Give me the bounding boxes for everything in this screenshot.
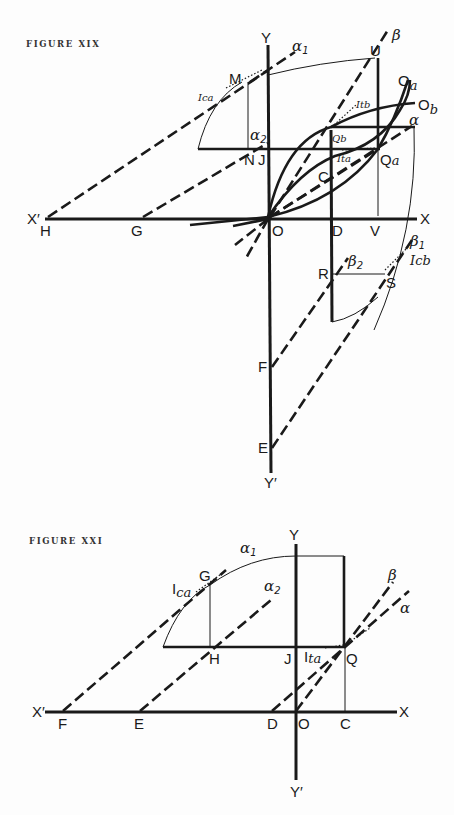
label-j: J: [258, 151, 266, 168]
label-n: N: [244, 151, 255, 168]
label-alpha2: α2: [250, 126, 267, 145]
label-ica: Ica: [197, 92, 214, 103]
label-r: R: [318, 265, 329, 282]
label-y: Y: [289, 526, 299, 543]
label-beta2: β2: [347, 252, 363, 271]
label-g: G: [199, 567, 211, 584]
figure-xxi-diagram: Y Y′ X X′ F E D O C G H J Q α α1 α2 β Ic…: [0, 520, 454, 815]
label-qb: Qb: [332, 133, 347, 144]
label-v: V: [370, 222, 380, 239]
label-f: F: [58, 715, 67, 732]
label-g: G: [131, 222, 143, 239]
label-e: E: [134, 715, 144, 732]
e-dashed-line: [140, 600, 271, 711]
label-beta1: β1: [409, 232, 425, 251]
alpha1-dashed-line: [250, 52, 295, 82]
lower-left-dash-2: [245, 219, 268, 260]
label-alpha2: α2: [264, 577, 281, 596]
label-s: S: [386, 274, 396, 291]
label-j: J: [284, 650, 292, 667]
label-y-prime: Y′: [290, 783, 303, 800]
label-ita: Ita: [336, 153, 351, 164]
label-f: F: [258, 358, 267, 375]
label-x: X: [420, 210, 430, 227]
label-ica: Ica: [172, 580, 191, 600]
label-h: H: [40, 222, 51, 239]
label-alpha1: α1: [292, 37, 309, 56]
label-y: Y: [261, 29, 271, 46]
label-alpha: α: [409, 111, 419, 129]
label-qa: Qa: [380, 151, 399, 168]
label-o: O: [272, 222, 284, 239]
label-alpha1: α1: [240, 539, 257, 558]
label-h: H: [209, 650, 220, 667]
label-x-prime: X′: [27, 210, 40, 227]
label-icb: Icb: [409, 253, 431, 268]
e-dashed-line: [272, 240, 412, 448]
label-o: O: [298, 715, 310, 732]
ica-dashed-line: [48, 71, 267, 217]
label-alpha: α: [400, 599, 410, 617]
label-m: M: [229, 70, 242, 87]
label-x-prime: X′: [32, 703, 45, 720]
f-dashed-line: [63, 570, 226, 711]
label-d: D: [267, 715, 278, 732]
label-c: C: [318, 168, 329, 185]
label-y-prime: Y′: [264, 474, 277, 491]
label-d: D: [332, 222, 343, 239]
figure-xix-diagram: Y Y′ X X′ H G O D V M N J U C R S F E Qa…: [0, 0, 454, 520]
label-ita: Ita: [304, 648, 321, 666]
label-x: X: [399, 703, 409, 720]
label-itb: Itb: [355, 99, 370, 110]
label-q: Q: [346, 650, 358, 667]
label-c: C: [340, 715, 351, 732]
label-ob: Ob: [418, 96, 438, 117]
y-axis: [268, 45, 271, 473]
label-e: E: [258, 439, 268, 456]
label-beta: β: [391, 26, 401, 44]
label-u: U: [370, 42, 381, 59]
label-beta: β: [387, 566, 397, 584]
